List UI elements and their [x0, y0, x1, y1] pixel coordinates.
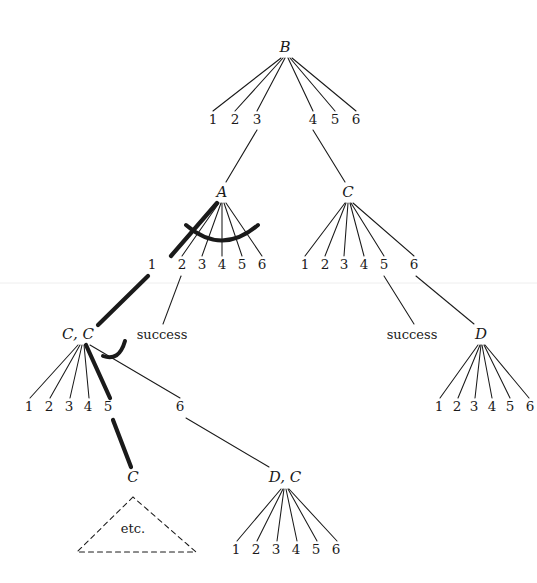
edge-dc-4 — [286, 489, 297, 541]
edge-c-5 — [351, 203, 384, 256]
edge-d-3 — [475, 345, 481, 398]
tree-node-dc[interactable]: D, C — [269, 470, 302, 485]
move-label-a-6[interactable]: 6 — [258, 258, 267, 272]
move-label-a-2[interactable]: 2 — [178, 258, 187, 272]
tree-node-d[interactable]: D — [475, 327, 487, 342]
move-label-a-5[interactable]: 5 — [238, 258, 247, 272]
move-label-c-1[interactable]: 1 — [301, 258, 310, 272]
move-label-c-4[interactable]: 4 — [360, 258, 369, 272]
move-label-d-4[interactable]: 4 — [488, 400, 497, 414]
edge-b3-to-a — [226, 130, 257, 182]
edge-cc5-to-c-highlight — [113, 420, 131, 467]
edge-d-4 — [482, 345, 492, 398]
edge-d-6 — [485, 345, 529, 398]
annotation-success-right: success — [387, 328, 438, 341]
edge-a-2 — [182, 203, 219, 256]
edge-group-d-moves — [440, 345, 529, 398]
move-label-a-1[interactable]: 1 — [148, 258, 157, 272]
move-label-d-2[interactable]: 2 — [453, 400, 462, 414]
edge-b-5 — [290, 58, 335, 111]
move-label-b-5[interactable]: 5 — [331, 113, 340, 127]
edge-a-6 — [226, 203, 262, 256]
move-label-dc-2[interactable]: 2 — [252, 543, 261, 557]
move-label-d-6[interactable]: 6 — [526, 400, 535, 414]
edge-b-2 — [235, 58, 283, 111]
tree-node-cc[interactable]: C, C — [62, 327, 94, 342]
move-label-cc-5[interactable]: 5 — [104, 400, 113, 414]
move-label-d-5[interactable]: 5 — [506, 400, 515, 414]
edge-d-5 — [484, 345, 510, 398]
move-label-dc-1[interactable]: 1 — [232, 543, 241, 557]
move-label-cc-3[interactable]: 3 — [65, 400, 74, 414]
tree-node-b[interactable]: B — [279, 40, 290, 55]
move-label-cc-1[interactable]: 1 — [25, 400, 34, 414]
edge-c-2 — [325, 203, 346, 256]
tree-diagram-canvas: B A C C, C D C D, C 1 2 3 4 5 6 1 2 3 4 … — [0, 0, 537, 583]
edge-dc-2 — [257, 489, 283, 541]
move-label-b-1[interactable]: 1 — [209, 113, 218, 127]
edge-cc-6 — [90, 345, 180, 398]
move-label-dc-6[interactable]: 6 — [332, 543, 341, 557]
move-label-cc-6[interactable]: 6 — [176, 400, 185, 414]
edge-group-dc-moves — [237, 489, 337, 541]
edge-b-6 — [292, 58, 356, 111]
move-label-b-6[interactable]: 6 — [352, 113, 361, 127]
edge-b-4 — [288, 58, 313, 111]
edge-group-c-moves — [305, 203, 414, 256]
move-label-c-2[interactable]: 2 — [321, 258, 330, 272]
move-label-b-2[interactable]: 2 — [231, 113, 240, 127]
move-label-cc-4[interactable]: 4 — [84, 400, 93, 414]
edge-cc6-to-dc — [186, 418, 269, 467]
edge-d-2 — [458, 345, 480, 398]
tree-node-c[interactable]: C — [342, 185, 353, 200]
edge-d-1 — [440, 345, 478, 398]
edge-group-b-moves — [213, 58, 356, 111]
move-label-c-5[interactable]: 5 — [380, 258, 389, 272]
move-label-a-3[interactable]: 3 — [198, 258, 207, 272]
move-label-c-6[interactable]: 6 — [410, 258, 419, 272]
tree-node-c2[interactable]: C — [127, 470, 138, 485]
edge-b4-to-c — [313, 130, 345, 182]
move-label-cc-2[interactable]: 2 — [45, 400, 54, 414]
edge-dc-3 — [277, 489, 284, 541]
move-label-b-4[interactable]: 4 — [309, 113, 318, 127]
move-label-c-3[interactable]: 3 — [340, 258, 349, 272]
tree-node-a[interactable]: A — [217, 185, 228, 200]
tree-edges-layer — [0, 0, 537, 583]
move-label-a-4[interactable]: 4 — [218, 258, 227, 272]
move-label-b-3[interactable]: 3 — [253, 113, 262, 127]
move-label-dc-5[interactable]: 5 — [312, 543, 321, 557]
edge-cc-5-highlight — [86, 345, 110, 398]
move-label-d-3[interactable]: 3 — [470, 400, 479, 414]
edge-dc-1 — [237, 489, 281, 541]
edge-c-3 — [344, 203, 348, 256]
edge-c-1 — [305, 203, 345, 256]
annotation-etc: etc. — [121, 522, 145, 535]
annotation-success-left: success — [137, 328, 188, 341]
edge-a-5 — [224, 203, 242, 256]
move-label-dc-4[interactable]: 4 — [292, 543, 301, 557]
move-label-d-1[interactable]: 1 — [435, 400, 444, 414]
move-label-dc-3[interactable]: 3 — [272, 543, 281, 557]
